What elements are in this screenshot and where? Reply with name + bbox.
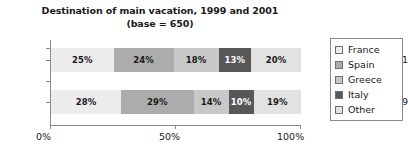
bar-row-2001: 25%24%18%13%20% — [51, 48, 301, 72]
legend-item-france[interactable]: France — [335, 42, 398, 57]
bar-segment-2001-other: 20% — [251, 48, 301, 72]
bar-segment-1999-other: 19% — [254, 90, 302, 114]
legend-item-italy[interactable]: Italy — [335, 87, 398, 102]
bar-segment-1999-italy: 10% — [229, 90, 254, 114]
bar-segment-value-label: 20% — [266, 56, 286, 65]
legend-swatch-icon — [335, 46, 343, 54]
bar-segment-value-label: 10% — [231, 98, 251, 107]
x-axis-tick-label-50: 50% — [159, 131, 180, 142]
bar-segment-value-label: 25% — [72, 56, 92, 65]
bar-segment-2001-france: 25% — [51, 48, 114, 72]
legend-swatch-icon — [335, 76, 343, 84]
bar-segment-value-label: 29% — [147, 98, 167, 107]
legend-item-spain[interactable]: Spain — [335, 57, 398, 72]
bar-segment-value-label: 24% — [133, 56, 153, 65]
bar-segment-value-label: 13% — [225, 56, 245, 65]
bar-segment-value-label: 19% — [267, 98, 287, 107]
bar-segment-2001-spain: 24% — [114, 48, 174, 72]
plot-area: 25%24%18%13%20% 28%29%14%10%19% — [50, 40, 300, 125]
legend-item-label: Italy — [348, 89, 369, 100]
bar-segment-value-label: 18% — [186, 56, 206, 65]
x-tick-mark — [300, 125, 301, 129]
y-tick-mark — [46, 102, 50, 103]
y-tick-mark — [46, 48, 50, 49]
chart-legend: FranceSpainGreeceItalyOther — [330, 38, 403, 121]
legend-item-other[interactable]: Other — [335, 102, 398, 117]
y-tick-mark — [46, 81, 50, 82]
bar-segment-1999-france: 28% — [51, 90, 121, 114]
x-axis-tick-label-0: 0% — [36, 131, 51, 142]
legend-item-greece[interactable]: Greece — [335, 72, 398, 87]
bar-segment-1999-greece: 14% — [194, 90, 229, 114]
chart-title-main: Destination of main vacation, 1999 and 2… — [0, 4, 320, 17]
bar-segment-1999-spain: 29% — [121, 90, 194, 114]
legend-item-label: Spain — [348, 59, 375, 70]
chart-title-subtitle: (base = 650) — [0, 17, 320, 30]
bar-segment-value-label: 14% — [201, 98, 221, 107]
bar-segment-2001-italy: 13% — [219, 48, 252, 72]
bar-segment-2001-greece: 18% — [174, 48, 219, 72]
chart-title: Destination of main vacation, 1999 and 2… — [0, 4, 320, 30]
bar-segment-value-label: 28% — [76, 98, 96, 107]
bar-row-1999: 28%29%14%10%19% — [51, 90, 301, 114]
legend-item-label: France — [348, 44, 380, 55]
legend-item-label: Other — [348, 104, 375, 115]
legend-swatch-icon — [335, 91, 343, 99]
x-tick-mark — [175, 125, 176, 129]
x-tick-mark — [50, 125, 51, 129]
y-tick-mark — [46, 60, 50, 61]
legend-swatch-icon — [335, 61, 343, 69]
legend-item-label: Greece — [348, 74, 382, 85]
x-axis-tick-label-100: 100% — [277, 131, 304, 142]
legend-swatch-icon — [335, 106, 343, 114]
